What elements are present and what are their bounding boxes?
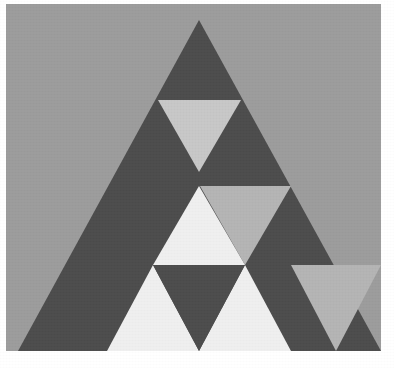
sierpinski-triangle-figure: [0, 0, 394, 368]
figure-root: [0, 0, 394, 368]
